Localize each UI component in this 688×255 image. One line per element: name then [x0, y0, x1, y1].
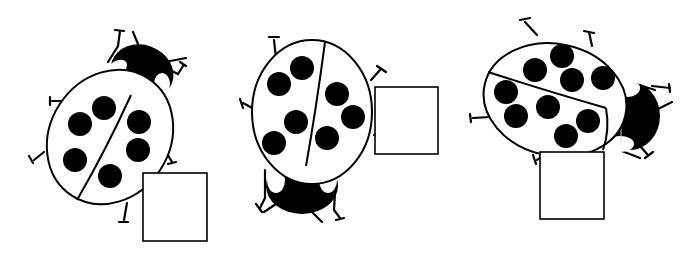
ladybug-3	[470, 18, 672, 170]
ladybug-3-spot	[554, 124, 578, 148]
ladybug-3-spot	[550, 44, 574, 68]
ladybug-3-spot	[591, 66, 615, 90]
ladybug-2-spot	[284, 110, 308, 134]
ladybug-3-spot	[536, 95, 560, 119]
ladybug-3-spot	[504, 104, 528, 128]
ladybug-drawing	[0, 0, 688, 255]
ladybug-2-spot	[325, 82, 349, 106]
ladybug-1-spot	[126, 138, 150, 162]
answer-box-2[interactable]	[375, 87, 438, 154]
ladybug-1-spot	[92, 96, 116, 120]
ladybug-1-spot	[98, 164, 122, 188]
ladybug-1-spot	[63, 148, 87, 172]
ladybug-2-spot	[315, 126, 339, 150]
answer-box-1[interactable]	[143, 173, 207, 241]
ladybug-2	[240, 37, 386, 222]
ladybug-1-spot	[127, 110, 151, 134]
ladybug-2-spot	[341, 105, 365, 129]
ladybug-2-spot	[290, 56, 314, 80]
ladybug-3-spot	[523, 58, 547, 82]
ladybug-2-spot	[267, 72, 291, 96]
answer-box-3[interactable]	[540, 152, 604, 219]
ladybug-figure	[0, 0, 688, 255]
ladybug-3-spot	[576, 109, 600, 133]
ladybug-3-spot	[494, 80, 518, 104]
ladybug-2-spot	[262, 131, 286, 155]
ladybug-1-spot	[68, 112, 92, 136]
ladybug-3-spot	[560, 68, 584, 92]
